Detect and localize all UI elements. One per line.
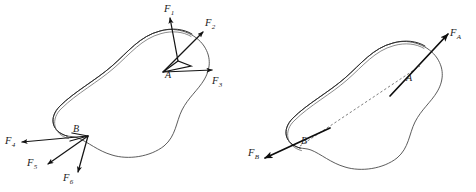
force-vector-FB <box>265 128 330 158</box>
force-vector-F2 <box>163 32 203 72</box>
label-force-FA: FA <box>450 28 461 39</box>
force-vector-F1 <box>170 18 178 61</box>
right-action-line-group <box>265 34 448 158</box>
figure-canvas <box>0 0 476 192</box>
label-force-F6: F6 <box>63 173 73 184</box>
label-point-A-right: A <box>406 73 412 83</box>
right-body-outline <box>286 41 442 169</box>
label-force-F4: F4 <box>5 136 15 147</box>
label-force-F2: F2 <box>205 18 215 29</box>
label-point-B-left: B <box>73 124 79 134</box>
label-force-F3: F3 <box>212 76 222 87</box>
force-diagram-figure: F1 F2 F3 F4 F5 F6 A B FA FB A B <box>0 0 476 192</box>
label-point-A-left: A <box>165 70 171 80</box>
label-force-FB: FB <box>248 148 259 159</box>
label-point-B-right: B <box>301 136 307 146</box>
label-force-F5: F5 <box>27 158 37 169</box>
label-force-F1: F1 <box>164 4 174 15</box>
